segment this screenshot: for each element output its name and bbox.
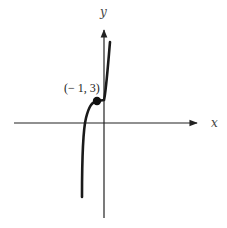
x-axis-label: x bbox=[211, 116, 218, 130]
inflection-point-marker bbox=[93, 97, 101, 105]
point-label: (− 1, 3) bbox=[64, 81, 100, 95]
y-axis-label: y bbox=[99, 5, 107, 19]
graph-canvas: x y (− 1, 3) bbox=[0, 0, 227, 228]
cubic-curve bbox=[82, 42, 110, 197]
